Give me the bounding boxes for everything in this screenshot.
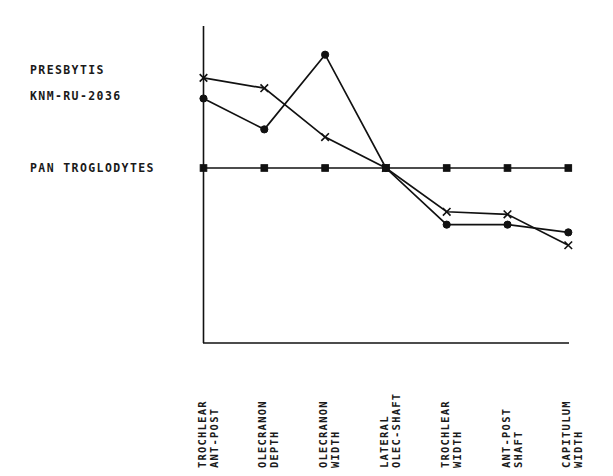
x-axis-label-line: OLEC-SHAFT: [390, 393, 402, 468]
chart-figure: PRESBYTIS KNM-RU-2036 PAN TROGLODYTES TR…: [0, 0, 613, 476]
x-axis-label-line: OLECRANON: [317, 400, 329, 468]
x-axis-label-0: TROCHLEARANT-POST: [196, 400, 220, 468]
data-point-circle: [565, 229, 572, 236]
x-axis-label-line: ANT-POST: [208, 400, 220, 468]
data-point-circle: [504, 221, 511, 228]
data-point-circle: [443, 221, 450, 228]
x-axis-label-5: ANT-POSTSHAFT: [500, 408, 524, 468]
data-point-circle: [322, 51, 329, 58]
data-point-x: [565, 241, 573, 249]
x-axis-label-line: CAPITULUM: [560, 400, 572, 468]
x-axis-label-line: LATERAL: [378, 393, 390, 468]
data-point-circle: [382, 164, 389, 171]
x-axis-label-4: TROCHLEARWIDTH: [439, 400, 463, 468]
data-point-square: [443, 165, 450, 172]
x-axis-label-line: TROCHLEAR: [439, 400, 451, 468]
x-axis-label-line: WIDTH: [572, 400, 584, 468]
series-knm-ru-2036: [200, 51, 572, 236]
data-point-square: [565, 165, 572, 172]
legend-label-pan-troglodytes: PAN TROGLODYTES: [30, 161, 155, 175]
x-axis-label-2: OLECRANONWIDTH: [317, 400, 341, 468]
x-axis-label-line: SHAFT: [512, 408, 524, 468]
x-axis-label-line: WIDTH: [329, 400, 341, 468]
axes: [203, 26, 569, 343]
x-axis-label-line: OLECRANON: [256, 400, 268, 468]
data-point-circle: [261, 126, 268, 133]
legend-label-presbytis: PRESBYTIS: [30, 63, 105, 77]
x-axis-label-line: DEPTH: [268, 400, 280, 468]
data-point-circle: [200, 95, 207, 102]
x-axis-label-line: TROCHLEAR: [196, 400, 208, 468]
data-point-square: [322, 165, 329, 172]
x-axis-label-3: LATERALOLEC-SHAFT: [378, 393, 402, 468]
x-axis-label-1: OLECRANONDEPTH: [256, 400, 280, 468]
series-layer: [200, 51, 572, 249]
x-axis-label-line: WIDTH: [451, 400, 463, 468]
series-path: [204, 78, 569, 245]
series-presbytis: [200, 74, 572, 249]
x-axis-label-line: ANT-POST: [500, 408, 512, 468]
data-point-square: [261, 165, 268, 172]
series-path: [204, 55, 569, 233]
data-point-x: [321, 133, 329, 141]
legend-label-specimen: KNM-RU-2036: [30, 89, 122, 103]
data-point-square: [200, 165, 207, 172]
x-axis-label-6: CAPITULUMWIDTH: [560, 400, 584, 468]
data-point-square: [504, 165, 511, 172]
